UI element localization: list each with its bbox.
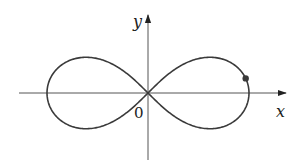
origin-label: 0 (134, 104, 144, 122)
marked-point (242, 75, 248, 81)
x-axis-label: x (276, 102, 285, 121)
y-axis-label: y (132, 12, 143, 31)
lemniscate-diagram: y x 0 (0, 0, 301, 166)
